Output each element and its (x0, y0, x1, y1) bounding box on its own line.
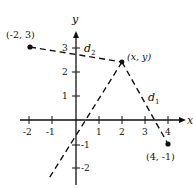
y-axis-arrow-icon (73, 31, 79, 38)
svg-text:4: 4 (165, 127, 171, 137)
point-4-neg1 (165, 141, 170, 146)
label-d2: d2 (84, 42, 96, 57)
coordinate-diagram: x y -2 -1 1 2 3 4 3 2 1 -1 -2 (0, 0, 193, 188)
x-axis-arrow-icon (179, 117, 186, 123)
svg-text:-2: -2 (23, 127, 32, 137)
label-d1: d1 (148, 91, 160, 106)
label-point-neg2-3: (-2, 3) (6, 29, 35, 40)
svg-text:2: 2 (119, 127, 125, 137)
svg-text:3: 3 (62, 43, 68, 53)
label-point-x-y: (x, y) (127, 51, 151, 62)
x-axis-label: x (187, 114, 193, 127)
svg-text:-2: -2 (81, 163, 90, 173)
svg-text:3: 3 (142, 127, 148, 137)
y-axis-label: y (71, 13, 79, 26)
svg-text:2: 2 (62, 67, 68, 77)
svg-text:-1: -1 (81, 140, 90, 150)
label-point-4-neg1: (4, -1) (146, 151, 175, 162)
point-neg2-3 (27, 44, 32, 49)
x-tick-labels: -2 -1 1 2 3 4 (23, 127, 171, 137)
svg-text:-1: -1 (46, 127, 55, 137)
svg-text:1: 1 (96, 127, 102, 137)
point-x-y (120, 60, 125, 65)
svg-text:1: 1 (62, 91, 68, 101)
